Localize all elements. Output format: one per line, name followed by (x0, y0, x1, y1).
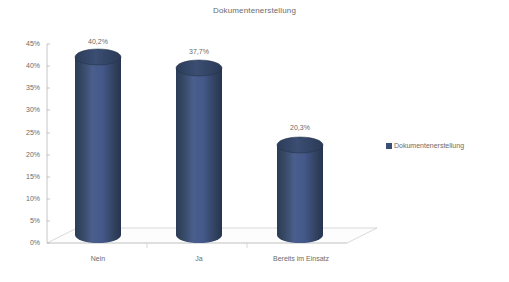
legend-label: Dokumentenerstellung (394, 142, 464, 149)
y-tick-label: 40% (14, 62, 40, 69)
data-label-bereits-im-einsatz: 20,3% (270, 124, 330, 131)
bar-ja[interactable] (176, 60, 222, 243)
y-tick-label: 15% (14, 173, 40, 180)
y-tick-label: 45% (14, 40, 40, 47)
x-tick-label-ja: Ja (169, 255, 229, 262)
legend-swatch-icon (386, 143, 392, 149)
y-tick-label: 20% (14, 151, 40, 158)
y-tick-label: 25% (14, 129, 40, 136)
bar-nein[interactable] (75, 49, 121, 243)
y-tick-label: 10% (14, 195, 40, 202)
y-axis (47, 44, 50, 243)
data-label-nein: 40,2% (68, 38, 128, 45)
y-tick-label: 30% (14, 106, 40, 113)
bar-bereits-im-einsatz[interactable] (277, 137, 323, 243)
plot-area: 45% 40% 35% 30% 25% 20% 15% 10% 5% 0% 40… (0, 0, 509, 282)
data-label-ja: 37,7% (169, 48, 229, 55)
x-tick-label-nein: Nein (68, 255, 128, 262)
chart-container: Dokumentenerstellung (0, 0, 509, 282)
y-tick-label: 35% (14, 84, 40, 91)
x-axis (47, 243, 347, 248)
x-tick-label-bereits-im-einsatz: Bereits im Einsatz (255, 255, 347, 262)
y-tick-label: 0% (14, 239, 40, 246)
chart-legend: Dokumentenerstellung (386, 142, 464, 149)
y-tick-label: 5% (14, 217, 40, 224)
